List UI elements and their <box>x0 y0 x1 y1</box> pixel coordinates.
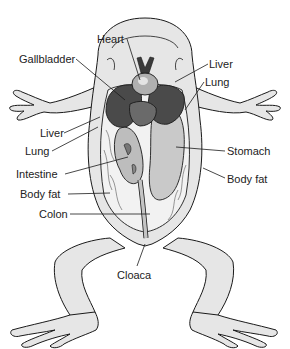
label-stomach: Stomach <box>227 145 270 157</box>
label-heart: Heart <box>97 33 124 45</box>
frog-anatomy-diagram: Heart Gallbladder Liver Lung Liver Lung … <box>0 0 290 349</box>
label-body-fat-left: Body fat <box>20 188 60 200</box>
label-intestine: Intestine <box>16 168 58 180</box>
label-lung-left: Lung <box>25 145 49 157</box>
label-colon: Colon <box>39 208 68 220</box>
label-liver-right: Liver <box>209 58 233 70</box>
label-cloaca: Cloaca <box>117 269 151 281</box>
label-lung-right: Lung <box>205 76 229 88</box>
label-liver-left: Liver <box>40 127 64 139</box>
hind-legs <box>11 238 278 348</box>
label-body-fat-right: Body fat <box>227 173 267 185</box>
label-gallbladder: Gallbladder <box>19 53 75 65</box>
